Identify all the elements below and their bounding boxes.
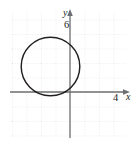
x-axis-tick-label-4: 4 [113, 93, 118, 104]
x-axis-label: x [126, 92, 130, 102]
math-figure-coordinate-plane: y x 6 4 [0, 0, 136, 143]
y-axis-tick-label-6: 6 [64, 20, 69, 31]
y-axis-label: y [63, 8, 67, 18]
